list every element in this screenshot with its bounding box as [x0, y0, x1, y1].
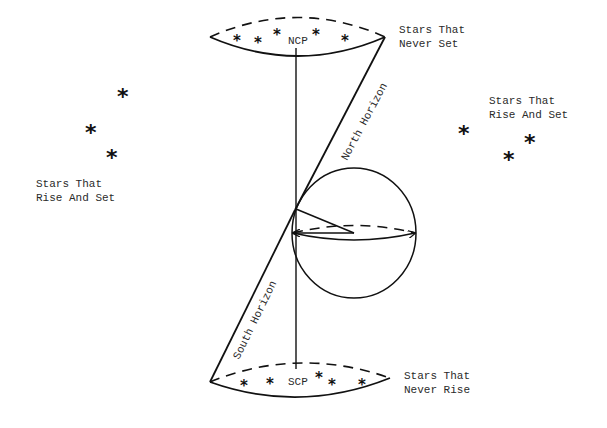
star-icon: * [358, 376, 366, 394]
equator-front-arc [293, 233, 415, 240]
star-icon: * [524, 130, 536, 155]
star-icon: * [233, 32, 241, 50]
star-icon: * [328, 376, 336, 394]
star-icon: * [254, 34, 262, 52]
scp-label: SCP [288, 376, 308, 388]
rise-set-left-label: Stars That Rise And Set [36, 178, 115, 204]
star-icon: * [240, 377, 248, 395]
ncp-label: NCP [288, 35, 308, 47]
north-horizon-label: North Horizon [339, 81, 390, 162]
rise-set-left-stars: * * * [85, 84, 129, 170]
svg-text:Rise And Set: Rise And Set [36, 192, 115, 204]
svg-text:Rise And Set: Rise And Set [489, 109, 568, 121]
star-icon: * [312, 26, 320, 44]
star-icon: * [458, 121, 470, 146]
svg-text:Stars That: Stars That [36, 178, 102, 190]
north-horizon-line [295, 37, 385, 210]
star-icon: * [106, 145, 118, 170]
earth-sphere [292, 168, 416, 298]
latitude-line [296, 209, 354, 233]
star-icon: * [85, 120, 97, 145]
never-rise-label: Stars That Never Rise [404, 370, 470, 396]
rise-set-right-stars: * * * [458, 121, 536, 172]
equator-back-dashed [293, 226, 415, 234]
star-icon: * [117, 84, 129, 109]
celestial-diagram: NCP SCP North Horizon South Horizon Star… [0, 0, 607, 428]
svg-text:Never Rise: Never Rise [404, 384, 470, 396]
rise-set-right-label: Stars That Rise And Set [489, 95, 568, 121]
star-icon: * [266, 375, 274, 393]
svg-text:Stars That: Stars That [399, 24, 465, 36]
svg-text:Stars That: Stars That [404, 370, 470, 382]
never-set-label: Stars That Never Set [399, 24, 465, 50]
svg-text:Never Set: Never Set [399, 38, 458, 50]
star-icon: * [503, 147, 515, 172]
svg-text:Stars That: Stars That [489, 95, 555, 107]
south-horizon-line [210, 210, 295, 382]
star-icon: * [315, 369, 323, 387]
star-icon: * [341, 32, 349, 50]
star-icon: * [273, 26, 281, 44]
